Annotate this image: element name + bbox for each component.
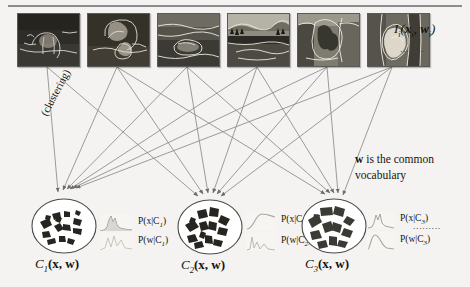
vocabulary-annotation: w is the common vocabulary (355, 152, 434, 183)
cluster-label-C3: C3(x, w) (305, 256, 349, 274)
plot-label-pw-C1: P(w|C1) (138, 235, 168, 248)
pw-C1-w: w (146, 235, 153, 245)
cluster-node-C3[interactable]: C3(x, w) (300, 192, 368, 260)
thumbnail-image-4[interactable] (227, 13, 290, 67)
cluster-C3-letter: C (305, 256, 314, 271)
cluster-node-C2[interactable]: C2(x, w) (176, 193, 244, 261)
plot-px-C1 (100, 214, 132, 231)
pw-C1-subscript: 1 (162, 240, 166, 248)
cluster-C1-args: (x, w) (48, 256, 79, 271)
thumbnail-image-3[interactable] (157, 13, 220, 67)
plot-pw-C1 (100, 233, 132, 250)
px-C1-x: x (146, 216, 151, 226)
plot-px-C3 (367, 211, 395, 229)
image-label-w: w (420, 21, 429, 36)
thumbnail-image-2[interactable] (87, 13, 150, 67)
thumbnail-image-5[interactable] (297, 13, 360, 67)
plot-label-px-C1: P(x|C1) (138, 216, 166, 229)
top-ellipsis: ........ (400, 44, 425, 54)
pw-C3-subscript: 3 (424, 239, 428, 247)
plot-pw-C2 (246, 233, 276, 251)
cluster-C2-args: (x, w) (194, 257, 225, 272)
image-set-label: Ii(xi, wi) (394, 22, 435, 39)
right-ellipsis: ......... (413, 221, 441, 231)
plot-pw-C3 (367, 232, 395, 250)
px-C1-subscript: 1 (159, 221, 163, 229)
cluster-C1-letter: C (35, 256, 44, 271)
cluster-C3-args: (x, w) (318, 256, 349, 271)
cluster-node-C1[interactable]: C1(x, w) (30, 192, 98, 260)
image-label-paren-close: ) (431, 21, 435, 36)
px-C2-x: x (289, 214, 294, 224)
vocabulary-line2: vocabulary (355, 169, 406, 181)
pw-C2-w: w (289, 235, 296, 245)
plot-px-C2 (246, 212, 276, 230)
vocabulary-line1-rest: is the common (363, 153, 434, 165)
thumbnail-image-1[interactable] (17, 13, 80, 67)
plot-label-pw-C3: P(w|C3) (400, 234, 430, 247)
cluster-C2-letter: C (181, 257, 190, 272)
cluster-label-C2: C2(x, w) (181, 257, 225, 275)
cluster-label-C1: C1(x, w) (35, 256, 79, 274)
pw-C3-w: w (408, 234, 415, 244)
figure-canvas: Ii(xi, wi) ........ (clustering) w is th… (0, 0, 470, 287)
